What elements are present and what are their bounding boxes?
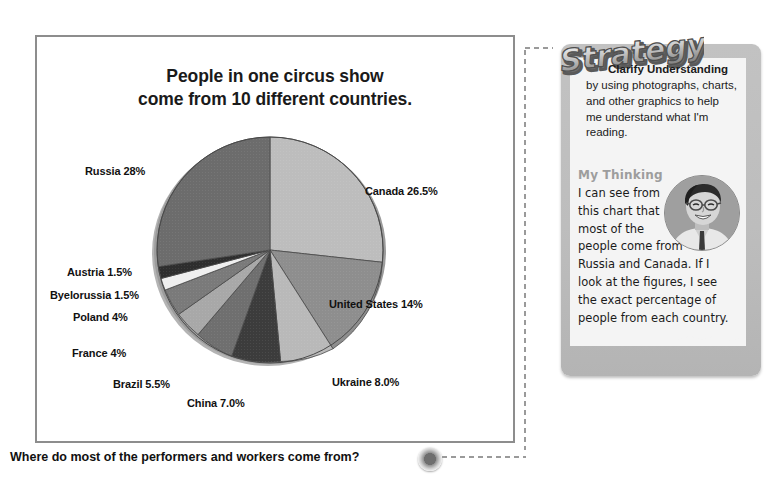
my-thinking-line: look at the figures, I see bbox=[578, 274, 736, 292]
clarify-understanding-block: Clarify Understanding by using photograp… bbox=[586, 62, 738, 141]
question-text: Where do most of the performers and work… bbox=[10, 450, 359, 464]
question-row: Where do most of the performers and work… bbox=[10, 447, 530, 475]
pie-label-russia: Russia 28% bbox=[85, 165, 145, 177]
pie-chart-svg bbox=[37, 37, 517, 445]
my-thinking-heading: My Thinking bbox=[578, 168, 663, 182]
dotted-connector-vertical bbox=[523, 48, 527, 450]
dotted-connector-top bbox=[523, 46, 553, 50]
pie-label-united-states: United States 14% bbox=[329, 298, 423, 310]
pie-outline bbox=[157, 137, 383, 363]
pie-label-france: France 4% bbox=[72, 347, 126, 359]
pie-label-poland: Poland 4% bbox=[73, 311, 128, 323]
student-portrait-photo bbox=[664, 175, 740, 251]
pie-label-brazil: Brazil 5.5% bbox=[113, 378, 170, 390]
torn-paper-edge bbox=[570, 330, 746, 356]
my-thinking-line: Russia and Canada. If I bbox=[578, 256, 736, 274]
chart-panel: People in one circus show come from 10 d… bbox=[35, 35, 515, 443]
clarify-heading: Clarify Understanding bbox=[586, 62, 738, 78]
my-thinking-line: people from each country. bbox=[578, 310, 736, 328]
answer-dot-icon[interactable] bbox=[418, 447, 442, 471]
pie-label-canada: Canada 26.5% bbox=[365, 185, 438, 197]
clarify-body: by using photographs, charts, and other … bbox=[586, 78, 738, 141]
portrait-illustration bbox=[665, 176, 739, 250]
pie-label-austria: Austria 1.5% bbox=[67, 266, 132, 278]
dotted-connector-bottom bbox=[440, 455, 526, 459]
my-thinking-line: the exact percentage of bbox=[578, 292, 736, 310]
page-root: People in one circus show come from 10 d… bbox=[0, 0, 767, 486]
pie-label-byelorussia: Byelorussia 1.5% bbox=[50, 289, 139, 301]
pie-chart: Russia 28% Austria 1.5% Byelorussia 1.5%… bbox=[37, 37, 517, 445]
pie-label-china: China 7.0% bbox=[187, 397, 245, 409]
pie-label-ukraine: Ukraine 8.0% bbox=[332, 376, 399, 388]
